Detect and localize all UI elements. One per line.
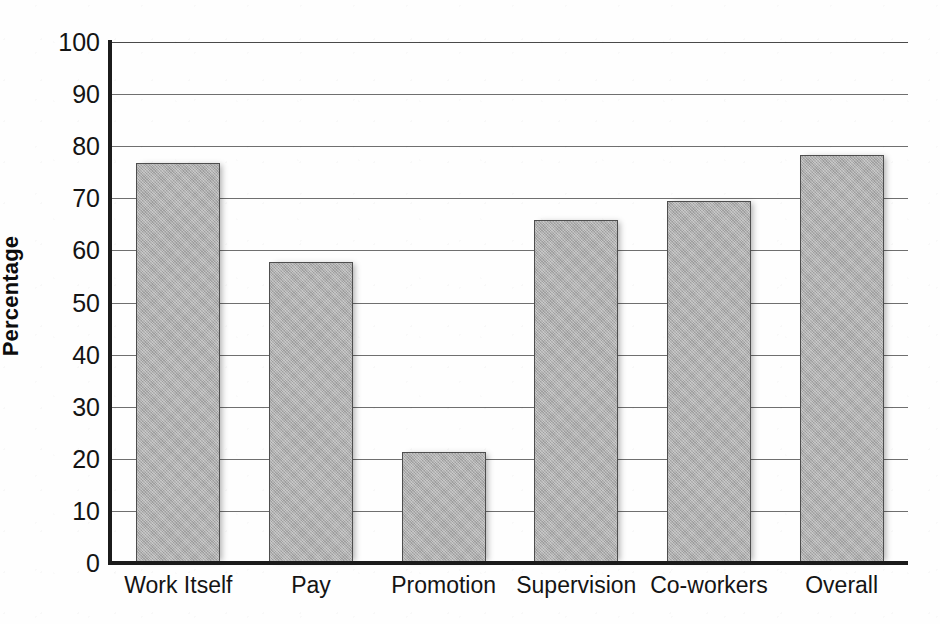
x-axis-tick-label: Supervision — [516, 574, 636, 597]
gridline — [112, 303, 908, 304]
y-axis-tick-label: 10 — [20, 498, 100, 523]
bar — [667, 201, 751, 563]
gridline — [112, 459, 908, 460]
x-axis-tick-label: Promotion — [391, 574, 496, 597]
x-axis-tick-label: Co-workers — [650, 574, 768, 597]
y-axis-tick-label: 30 — [20, 394, 100, 419]
bar — [800, 155, 884, 563]
bar — [269, 262, 353, 563]
y-axis-tick-label: 20 — [20, 446, 100, 471]
y-axis-tick-label: 90 — [20, 82, 100, 107]
gridline — [112, 355, 908, 356]
gridline — [112, 94, 908, 95]
gridline — [112, 42, 908, 43]
bar — [534, 220, 618, 563]
bar-chart-figure: Job Satisfaction Percentage 010203040506… — [0, 0, 940, 624]
bar — [136, 163, 220, 563]
y-axis-tick-label: 80 — [20, 134, 100, 159]
plot-area — [112, 42, 908, 563]
x-axis-tick-label: Overall — [805, 574, 878, 597]
y-axis-tick-label: 40 — [20, 342, 100, 367]
x-axis-tick-label: Pay — [291, 574, 331, 597]
x-axis-line — [108, 561, 908, 565]
y-axis-tick-label: 100 — [20, 30, 100, 55]
gridline — [112, 146, 908, 147]
gridline — [112, 511, 908, 512]
x-axis-tick-label: Work Itself — [124, 574, 232, 597]
y-axis-line — [108, 40, 112, 565]
gridline — [112, 198, 908, 199]
gridline — [112, 407, 908, 408]
y-axis-tick-label: 0 — [20, 551, 100, 576]
y-axis-tick-label: 50 — [20, 290, 100, 315]
y-axis-tick-label: 60 — [20, 238, 100, 263]
gridline — [112, 250, 908, 251]
y-axis-tick-labels: 0102030405060708090100 — [0, 0, 100, 624]
bar — [402, 452, 486, 563]
cropped-title-remnant: Job Satisfaction — [0, 0, 940, 10]
y-axis-tick-label: 70 — [20, 186, 100, 211]
